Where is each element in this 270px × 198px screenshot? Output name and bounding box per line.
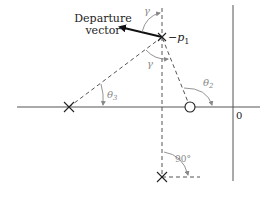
departure-vector-arrow (120, 27, 162, 37)
right-angle-label: 90° (175, 154, 191, 164)
departure-label-line2: vector (84, 24, 121, 37)
root-locus-diagram: Departure vector −p1 γ γ θ2 θ3 90° 0 (0, 0, 270, 198)
origin-label: 0 (236, 110, 242, 121)
zero-marker (185, 102, 195, 112)
theta3-angle-arc (101, 84, 103, 105)
gamma-mid-label: γ (147, 58, 153, 69)
gamma-top-label: γ (144, 5, 150, 16)
dashed-zero-to-p1 (162, 37, 190, 107)
pole-label-p1: −p1 (168, 31, 189, 46)
theta2-label: θ2 (203, 77, 214, 90)
theta3-label: θ3 (107, 89, 118, 102)
